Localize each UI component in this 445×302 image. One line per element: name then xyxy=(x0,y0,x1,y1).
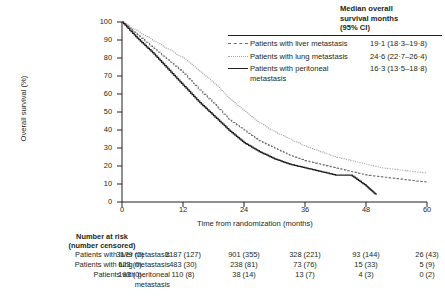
risk-cell: 73 (76) xyxy=(275,260,335,270)
risk-cell: 238 (81) xyxy=(214,260,274,270)
risk-cell: 901 (355) xyxy=(214,250,274,260)
risk-cell: 110 (8) xyxy=(153,270,213,280)
legend-key-liver-dashed-line xyxy=(228,39,250,47)
legend-header-line3: (95% CI) xyxy=(340,23,442,33)
risk-cell: 26 (43) xyxy=(397,250,445,260)
legend-label-lung: Patients with lung metastasis xyxy=(250,52,370,61)
risk-cell: 13 (7) xyxy=(275,270,335,280)
risk-cell: 0 (2) xyxy=(397,270,445,280)
median-survival-legend: Median overall survival months (95% CI) … xyxy=(228,4,442,83)
risk-table-title: Number at risk (number censored) xyxy=(22,232,182,250)
risk-title-line1: Number at risk xyxy=(22,232,182,241)
risk-cell: 93 (144) xyxy=(336,250,396,260)
survival-figure: Overall survival (%) Time from randomiza… xyxy=(0,0,445,302)
risk-cell: 328 (221) xyxy=(275,250,335,260)
y-tick-label: 80 xyxy=(90,54,112,61)
x-tick-label: 0 xyxy=(110,206,134,213)
x-tick-label: 12 xyxy=(171,206,195,213)
number-at-risk-table: Number at risk (number censored) Patient… xyxy=(0,232,445,290)
y-tick-label: 60 xyxy=(90,90,112,97)
x-tick-label: 36 xyxy=(293,206,317,213)
risk-cell: 193 (0) xyxy=(100,270,160,280)
legend-label-liver: Patients with liver metastasis xyxy=(250,39,370,48)
risk-cell: 5 (9) xyxy=(397,260,445,270)
legend-value-lung: 24·6 (22·7–26·4) xyxy=(370,52,427,61)
risk-table-row: Patients with lung metastasis623 (0)483 … xyxy=(0,260,445,270)
y-axis-label: Overall survival (%) xyxy=(19,59,28,159)
y-tick-label: 90 xyxy=(90,36,112,43)
legend-header-line2: survival months xyxy=(340,14,442,24)
legend-item-liver[interactable]: Patients with liver metastasis 19·1 (18·… xyxy=(228,39,442,48)
risk-table-row: Patients with liver metastasis3179 (2)21… xyxy=(0,250,445,260)
x-tick-marks xyxy=(122,202,427,207)
legend-header-line1: Median overall xyxy=(340,4,442,14)
legend-key-peritoneal-solid-line xyxy=(228,64,250,72)
legend-header: Median overall survival months (95% CI) xyxy=(340,4,442,33)
y-tick-marks xyxy=(117,22,122,202)
y-tick-label: 10 xyxy=(90,180,112,187)
x-tick-label: 60 xyxy=(415,206,439,213)
legend-value-liver: 19·1 (18·3–19·8) xyxy=(370,39,427,48)
x-axis-label: Time from randomization (months) xyxy=(155,219,355,228)
risk-cell: 38 (14) xyxy=(214,270,274,280)
risk-cell: 15 (33) xyxy=(336,260,396,270)
legend-label-peritoneal-line2: metastasis xyxy=(250,74,370,83)
y-tick-label: 20 xyxy=(90,162,112,169)
risk-cell: 623 (0) xyxy=(100,260,160,270)
legend-label-peritoneal-line1: Patients with peritoneal xyxy=(250,64,329,73)
risk-cell: 3179 (2) xyxy=(100,250,160,260)
y-tick-label: 40 xyxy=(90,126,112,133)
y-tick-label: 0 xyxy=(90,198,112,205)
risk-rows-container: Patients with liver metastasis3179 (2)21… xyxy=(0,250,445,290)
y-tick-label: 100 xyxy=(90,18,112,25)
y-tick-label: 50 xyxy=(90,108,112,115)
x-tick-label: 24 xyxy=(232,206,256,213)
x-tick-label: 48 xyxy=(354,206,378,213)
risk-cell: 483 (30) xyxy=(153,260,213,270)
legend-value-peritoneal: 16·3 (13·5–18·8) xyxy=(370,64,427,73)
risk-table-row: Patients with peritoneal193 (0)110 (8)38… xyxy=(0,270,445,280)
risk-cell: 2187 (127) xyxy=(153,250,213,260)
legend-item-lung[interactable]: Patients with lung metastasis 24·6 (22·7… xyxy=(228,52,442,61)
y-tick-label: 30 xyxy=(90,144,112,151)
risk-cell: 4 (3) xyxy=(336,270,396,280)
risk-table-row-cont: metastasis xyxy=(0,280,445,290)
y-tick-label: 70 xyxy=(90,72,112,79)
legend-label-peritoneal: Patients with peritoneal metastasis xyxy=(250,64,370,83)
risk-title-line2: (number censored) xyxy=(22,241,182,250)
risk-row-label-cont: metastasis xyxy=(0,280,170,290)
legend-divider xyxy=(228,35,442,36)
legend-item-peritoneal[interactable]: Patients with peritoneal metastasis 16·3… xyxy=(228,64,442,83)
legend-key-lung-dotted-line xyxy=(228,52,250,60)
